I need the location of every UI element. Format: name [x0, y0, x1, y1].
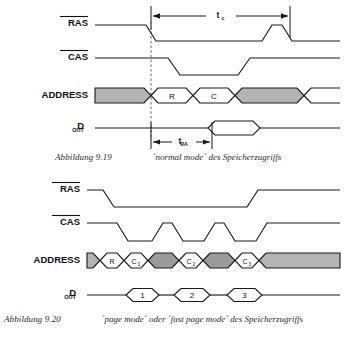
- dout-bus-9-19: [95, 121, 340, 135]
- address-cell2-7: [259, 253, 340, 268]
- timing-mark-tc: t c: [151, 6, 290, 38]
- caption-9-20-text: ´page mode´ oder ´fast page mode´ des Sp…: [101, 314, 303, 324]
- address-cell-1-label: R: [169, 92, 175, 101]
- dout-cell-0: [208, 121, 260, 135]
- signal-label-dout-2: D OUT: [64, 287, 76, 300]
- tc-label: t: [217, 10, 220, 20]
- dout2-cell-2-label: 3: [242, 291, 247, 300]
- signal-label-cas-2: CAS: [52, 216, 80, 228]
- tra-label-sub: RA: [180, 141, 188, 147]
- timing-diagram-normal-mode: RAS CAS ADDRESS D OUT t c: [0, 0, 346, 150]
- tra-arrowhead-left: [153, 139, 160, 144]
- caption-9-20: Abbildung 9.20 ´page mode´ oder ´fast pa…: [4, 314, 303, 324]
- dout2-cell-0-label: 1: [140, 291, 145, 300]
- tc-arrowhead-right: [281, 13, 288, 18]
- caption-9-20-number: Abbildung 9.20: [4, 314, 61, 324]
- figure-9-20: RAS CAS ADDRESS D OUT R C 1: [0, 175, 346, 337]
- waveform-ras: [95, 25, 340, 41]
- tra-arrowhead-right: [203, 139, 210, 144]
- waveform-cas-2: [87, 223, 340, 241]
- address-cell2-6-label: C: [242, 258, 247, 265]
- timing-mark-tra: t RA: [151, 122, 212, 149]
- address-cell2-5: [203, 253, 235, 268]
- signal-label-ras-text: RAS: [68, 17, 88, 28]
- address-cell2-3: [148, 253, 179, 268]
- signal-label-ras-2-text: RAS: [60, 183, 80, 194]
- signal-label-dout-sub: OUT: [72, 127, 84, 133]
- dout2-cell-1-label: 2: [190, 291, 195, 300]
- address-cell2-1-label: R: [109, 258, 114, 265]
- address-cell-3: [235, 88, 304, 103]
- address-cell-0: [95, 88, 151, 103]
- timing-diagram-page-mode: RAS CAS ADDRESS D OUT R C 1: [0, 175, 346, 315]
- waveform-cas: [95, 58, 340, 75]
- caption-9-19-number: Abbildung 9.19: [55, 152, 112, 162]
- signal-label-ras: RAS: [60, 17, 88, 29]
- signal-label-cas-text: CAS: [68, 51, 88, 62]
- signal-label-dout: D OUT: [72, 120, 84, 133]
- figure-9-19: RAS CAS ADDRESS D OUT t c: [0, 0, 346, 170]
- signal-label-dout-2-sub: OUT: [64, 294, 76, 300]
- address-cell2-0: [87, 253, 100, 268]
- signal-label-address-2: ADDRESS: [34, 254, 80, 265]
- caption-9-19-text: ´normal mode´ des Speicherzugriffs: [152, 152, 281, 162]
- address-cell-2-label: C: [211, 92, 217, 101]
- tc-arrowhead-left: [153, 13, 160, 18]
- dout-bus-9-20: 1 2 3: [87, 289, 340, 302]
- address-cell2-4-label: C: [186, 258, 191, 265]
- address-cell2-4-sub: 2: [193, 261, 196, 267]
- signal-label-ras-2: RAS: [52, 183, 80, 195]
- address-bus-9-19: R C: [95, 88, 340, 103]
- address-cell2-6-sub: 3: [249, 261, 252, 267]
- tc-label-sub: c: [222, 15, 225, 21]
- signal-label-cas: CAS: [60, 51, 88, 63]
- address-bus-9-20: R C 1 C 2 C 3: [87, 253, 340, 268]
- signal-label-address: ADDRESS: [42, 89, 88, 100]
- address-cell2-2-sub: 1: [138, 261, 141, 267]
- caption-9-19: Abbildung 9.19 ´normal mode´ des Speiche…: [55, 152, 281, 162]
- address-cell2-2-label: C: [131, 258, 136, 265]
- address-bus-tail: [304, 88, 340, 103]
- waveform-ras-2: [87, 190, 340, 207]
- signal-label-cas-2-text: CAS: [60, 216, 80, 227]
